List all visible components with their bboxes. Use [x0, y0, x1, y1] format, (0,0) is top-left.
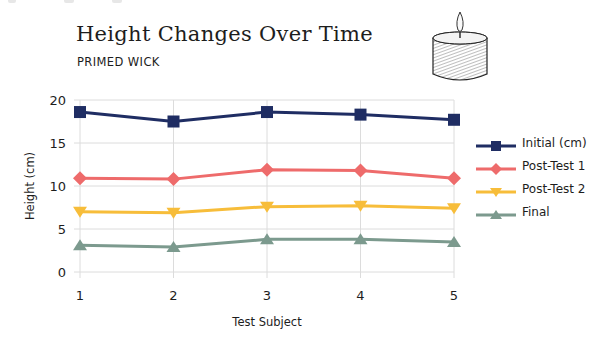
legend-label: Post-Test 1	[522, 159, 585, 173]
diamond-marker	[447, 171, 461, 185]
y-tick-label: 20	[49, 93, 66, 108]
square-marker	[448, 114, 460, 126]
y-tick-label: 5	[58, 222, 66, 237]
legend-swatch-post-test-1	[476, 160, 516, 172]
legend-item-post-test-2: Post-Test 2	[476, 177, 587, 200]
square-marker	[355, 109, 367, 121]
legend-item-post-test-1: Post-Test 1	[476, 154, 587, 177]
legend-item-initial: Initial (cm)	[476, 131, 587, 154]
diamond-marker	[354, 164, 368, 178]
square-marker	[491, 141, 501, 151]
legend-label: Final	[522, 205, 550, 219]
y-tick-label: 10	[49, 179, 66, 194]
legend-swatch-initial	[476, 137, 516, 149]
square-marker	[168, 116, 180, 128]
gridlines	[74, 100, 454, 278]
y-tick-label: 0	[58, 265, 66, 280]
x-tick-label: 2	[169, 288, 177, 303]
x-tick-label: 3	[263, 288, 271, 303]
square-marker	[261, 106, 273, 118]
x-tick-label: 5	[450, 288, 458, 303]
y-axis-label: Height (cm)	[23, 152, 37, 220]
legend-swatch-post-test-2	[476, 183, 516, 195]
diamond-marker	[490, 163, 502, 175]
x-axis-ticks: 12345	[76, 288, 458, 303]
legend-swatch-final	[476, 206, 516, 218]
chart-legend: Initial (cm) Post-Test 1 Post-Test 2 Fin…	[476, 131, 587, 223]
x-axis-label: Test Subject	[231, 315, 302, 329]
x-tick-label: 1	[76, 288, 84, 303]
square-marker	[74, 106, 86, 118]
legend-label: Post-Test 2	[522, 182, 585, 196]
y-tick-label: 15	[49, 136, 66, 151]
y-axis-ticks: 05101520	[49, 93, 66, 280]
legend-item-final: Final	[476, 200, 587, 223]
diamond-marker	[73, 171, 87, 185]
x-tick-label: 4	[356, 288, 364, 303]
diamond-marker	[260, 163, 274, 177]
diamond-marker	[167, 172, 181, 186]
legend-label: Initial (cm)	[522, 136, 587, 150]
